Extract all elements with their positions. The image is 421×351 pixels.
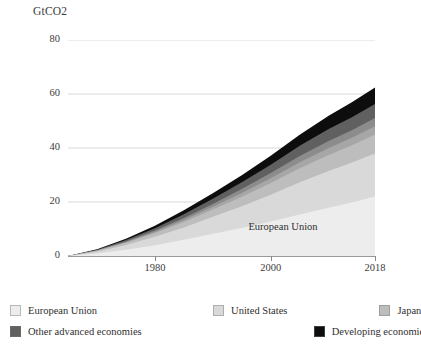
legend-item[interactable]: Japan	[379, 305, 421, 316]
legend-swatch-icon	[10, 326, 21, 337]
plot-area	[68, 40, 375, 256]
chart-legend: European UnionUnited StatesJapanKoreaCan…	[10, 300, 415, 342]
legend-row: European UnionUnited StatesJapanKoreaCan…	[10, 300, 415, 321]
legend-item[interactable]: United States	[213, 305, 287, 316]
legend-row: Other advanced economiesDeveloping econo…	[10, 321, 415, 342]
y-tick-label: 40	[34, 141, 60, 152]
x-tick-mark	[155, 256, 156, 261]
legend-swatch-icon	[10, 305, 21, 316]
x-tick-label: 1980	[144, 262, 165, 273]
legend-label: Developing economies	[332, 326, 421, 337]
legend-item[interactable]: Developing economies	[314, 326, 421, 337]
legend-swatch-icon	[213, 305, 224, 316]
legend-label: European Union	[28, 305, 97, 316]
annotation-european-union: European Union	[248, 221, 317, 232]
chart-figure: GtCO2 020406080 198020002018 European Un…	[0, 0, 421, 351]
area-series-group	[68, 88, 375, 256]
x-tick-label: 2018	[365, 262, 386, 273]
legend-swatch-icon	[314, 326, 325, 337]
legend-swatch-icon	[379, 305, 390, 316]
legend-label: Other advanced economies	[28, 326, 142, 337]
x-axis-line	[68, 256, 375, 257]
y-axis-label: GtCO2	[33, 5, 67, 17]
y-tick-label: 80	[34, 33, 60, 44]
legend-label: United States	[231, 305, 287, 316]
x-tick-mark	[375, 256, 376, 261]
legend-item[interactable]: European Union	[10, 305, 97, 316]
x-tick-mark	[271, 256, 272, 261]
legend-item[interactable]: Other advanced economies	[10, 326, 142, 337]
y-tick-label: 0	[34, 249, 60, 260]
stacked-area-svg	[68, 40, 375, 256]
y-tick-label: 20	[34, 195, 60, 206]
legend-label: Japan	[397, 305, 421, 316]
x-tick-label: 2000	[260, 262, 281, 273]
y-tick-label: 60	[34, 87, 60, 98]
